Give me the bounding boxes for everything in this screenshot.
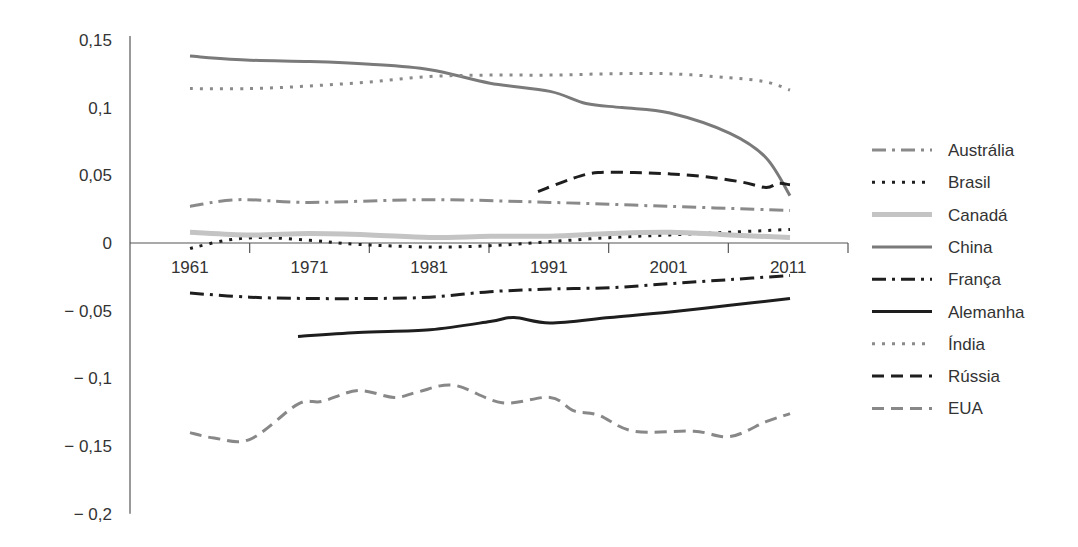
x-tick-label: 1991 (530, 258, 568, 277)
y-tick-label: 0,15 (79, 31, 112, 50)
y-tick-label: 0,1 (88, 99, 112, 118)
legend-item: EUA (872, 399, 984, 418)
y-tick-label: 0 (103, 234, 112, 253)
plot-area (190, 56, 790, 442)
legend-label: Índia (948, 335, 985, 354)
x-axis: 196119711981199120012011 (130, 243, 848, 277)
x-tick-label: 1981 (410, 258, 448, 277)
legend-label: Brasil (948, 173, 991, 192)
legend-item: Índia (872, 335, 985, 354)
x-tick-label: 1961 (171, 258, 209, 277)
legend-label: China (948, 238, 993, 257)
legend-item: Austrália (872, 141, 1015, 160)
series-line-china (190, 56, 790, 196)
legend-item: Brasil (872, 173, 991, 192)
legend-label: Austrália (948, 141, 1015, 160)
legend-label: França (948, 270, 1001, 289)
series-line-alemanha (298, 299, 790, 337)
legend: AustráliaBrasilCanadáChinaFrançaAlemanha… (872, 141, 1025, 418)
legend-label: Rússia (948, 367, 1001, 386)
y-tick-label: − 0,2 (74, 505, 112, 524)
line-chart: 0,150,10,050− 0,05− 0,1− 0,15− 0,2 19611… (0, 0, 1078, 547)
x-tick-label: 2011 (770, 258, 807, 277)
y-tick-label: − 0,05 (64, 302, 112, 321)
legend-item: França (872, 270, 1001, 289)
x-tick-label: 1971 (291, 258, 329, 277)
legend-label: Canadá (948, 206, 1008, 225)
legend-item: Alemanha (872, 303, 1025, 322)
legend-item: China (872, 238, 993, 257)
y-tick-label: − 0,15 (64, 437, 112, 456)
legend-item: Rússia (872, 367, 1001, 386)
y-axis: 0,150,10,050− 0,05− 0,1− 0,15− 0,2 (64, 31, 130, 524)
legend-label: EUA (948, 399, 984, 418)
legend-item: Canadá (872, 206, 1008, 225)
series-line-franca (190, 276, 790, 299)
legend-label: Alemanha (948, 303, 1025, 322)
x-tick-label: 2001 (650, 258, 688, 277)
series-line-eua (190, 385, 790, 442)
series-line-australia (190, 200, 790, 211)
y-tick-label: 0,05 (79, 166, 112, 185)
y-tick-label: − 0,1 (74, 369, 112, 388)
series-line-russia (538, 172, 790, 191)
